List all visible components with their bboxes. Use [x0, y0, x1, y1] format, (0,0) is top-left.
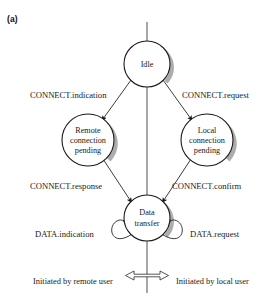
caption-row: Initiated by remote user Initiated by lo… [33, 271, 249, 286]
edge-connect-request-line [163, 80, 193, 121]
edge-label-data-indication: DATA.indication [35, 229, 94, 239]
node-data-transfer-label-line2: transfer [134, 219, 159, 228]
node-idle-label: Idle [141, 60, 154, 69]
diagram-canvas: Idle Remote connection pending Local con… [0, 0, 277, 307]
edge-label-data-request: DATA.request [190, 229, 240, 239]
edge-label-connect-indication: CONNECT.indication [30, 90, 107, 100]
node-local-label-line1: Local [198, 126, 217, 135]
edge-connect-indication-line [102, 80, 132, 121]
node-data-transfer-label-line1: Data [139, 208, 155, 217]
node-remote-label-line2: connection [70, 136, 106, 145]
node-remote-label-line3: pending [75, 146, 101, 155]
state-transition-figure: (a) [0, 0, 277, 307]
edge-label-connect-response: CONNECT.response [30, 181, 102, 191]
caption-right: Initiated by local user [176, 277, 249, 286]
node-data-transfer [124, 195, 170, 241]
node-local-label-line3: pending [194, 146, 220, 155]
edge-connect-response-line [103, 159, 132, 203]
node-remote-label-line1: Remote [75, 126, 101, 135]
edge-label-connect-request: CONNECT.request [182, 90, 250, 100]
edge-label-connect-confirm: CONNECT.confirm [172, 181, 242, 191]
node-local-label-line2: connection [189, 136, 225, 145]
caption-left: Initiated by remote user [33, 277, 113, 286]
